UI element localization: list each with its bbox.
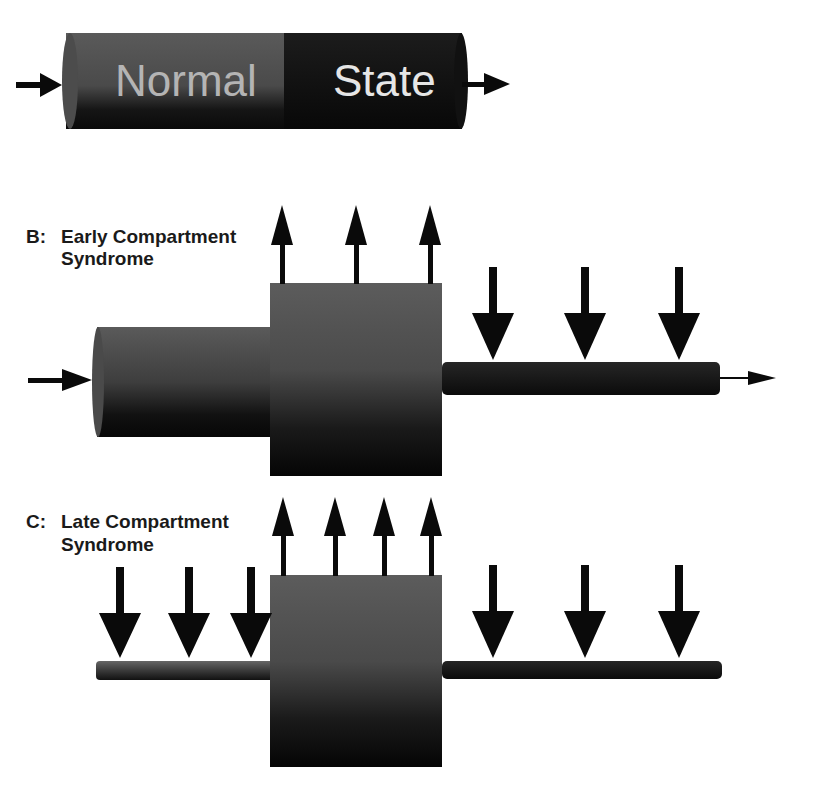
panel-b-letter: B: bbox=[26, 226, 46, 248]
constricted-outflow-tube bbox=[442, 661, 722, 679]
up-arrows bbox=[272, 497, 442, 576]
constricted-tube bbox=[442, 362, 720, 395]
normal-label: Normal bbox=[115, 56, 257, 106]
down-arrow-icon bbox=[658, 565, 700, 658]
outflow-arrow-icon bbox=[720, 371, 776, 385]
swollen-compartment bbox=[270, 575, 442, 767]
panel-b-title-line2: Syndrome bbox=[61, 248, 154, 270]
panel-b-heading: B: Early Compartment Syndrome bbox=[26, 226, 286, 276]
down-arrow-icon bbox=[472, 267, 514, 360]
up-arrow-icon bbox=[324, 497, 346, 576]
panel-b-title-line1: Early Compartment bbox=[61, 226, 236, 248]
cylinder-normal bbox=[97, 327, 272, 437]
down-arrow-icon bbox=[658, 267, 700, 360]
down-arrow-icon bbox=[564, 267, 606, 360]
up-arrow-icon bbox=[345, 205, 367, 284]
down-arrow-icon bbox=[168, 567, 210, 658]
up-arrow-icon bbox=[420, 497, 442, 576]
down-arrow-icon bbox=[564, 565, 606, 658]
constricted-inflow-tube bbox=[96, 661, 274, 680]
panel-c-heading: C: Late Compartment Syndrome bbox=[26, 511, 286, 561]
panel-c-title-line1: Late Compartment bbox=[61, 511, 229, 533]
down-arrow-icon bbox=[230, 567, 272, 658]
panel-c-title-line2: Syndrome bbox=[61, 534, 154, 556]
up-arrow-icon bbox=[373, 497, 395, 576]
swollen-compartment bbox=[270, 283, 442, 476]
up-arrows bbox=[271, 205, 441, 284]
down-arrow-icon bbox=[99, 567, 141, 658]
up-arrow-icon bbox=[419, 205, 441, 284]
inflow-arrow-icon bbox=[28, 369, 92, 391]
panel-c-letter: C: bbox=[26, 511, 46, 533]
panel-a-text: Normal State bbox=[0, 0, 816, 150]
down-arrows-right bbox=[472, 565, 700, 658]
down-arrows-left bbox=[99, 567, 272, 658]
state-label: State bbox=[333, 56, 436, 106]
down-arrow-icon bbox=[472, 565, 514, 658]
down-arrows bbox=[472, 267, 700, 360]
